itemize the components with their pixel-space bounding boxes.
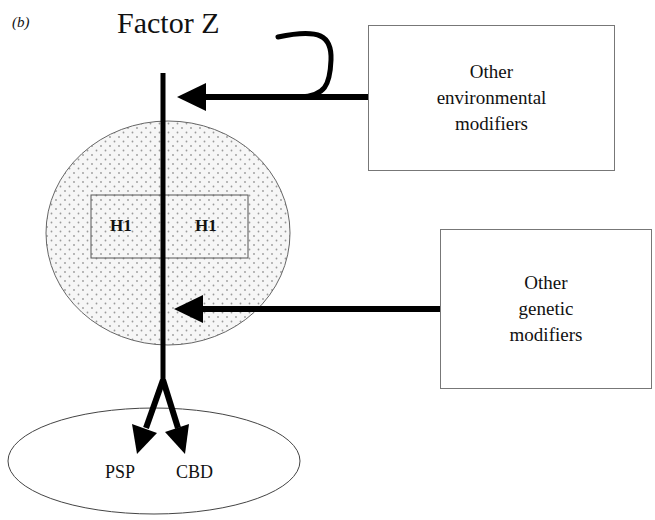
factor-z-hook: [278, 33, 331, 97]
env-line-2: environmental: [437, 85, 547, 111]
environmental-modifiers-box: Other environmental modifiers: [368, 25, 615, 171]
factor-z-title: Factor Z: [117, 6, 219, 40]
gen-line-3: modifiers: [510, 322, 583, 348]
gen-line-1: Other: [510, 270, 583, 296]
h1-left-label: H1: [110, 216, 132, 236]
env-line-1: Other: [437, 59, 547, 85]
arrowhead-environmental-icon: [177, 83, 206, 111]
gen-line-2: genetic: [510, 296, 583, 322]
psp-label: PSP: [105, 462, 135, 483]
outcome-ellipse: [8, 408, 300, 514]
h1-right-label: H1: [195, 216, 217, 236]
cbd-label: CBD: [176, 462, 213, 483]
env-line-3: modifiers: [437, 111, 547, 137]
genetic-modifiers-box: Other genetic modifiers: [440, 229, 652, 389]
panel-label: (b): [12, 14, 30, 31]
